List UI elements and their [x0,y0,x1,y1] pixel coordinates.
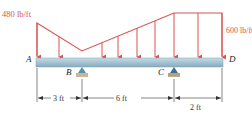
point-a-label: A [25,54,32,64]
support-b [76,67,88,77]
point-c-label: C [158,67,165,77]
left-load-label: 480 lb/ft [2,9,32,19]
dimension-bc-label: 6 ft [116,94,128,103]
support-c [168,67,180,77]
dimension-ab-label: 3 ft [53,94,65,103]
extension-lines [37,68,222,102]
point-b-label: B [66,67,72,77]
load-arrows [37,13,222,57]
beam-diagram: 480 lb/ft 600 lb/ft A B C D 3 ft 6 ft 2 … [0,0,252,114]
point-d-label: D [228,54,236,64]
beam [36,58,223,67]
dimension-cd-label: 2 ft [190,103,202,112]
distributed-load [37,13,222,57]
right-load-label: 600 lb/ft [226,26,252,35]
load-outline [37,13,222,56]
